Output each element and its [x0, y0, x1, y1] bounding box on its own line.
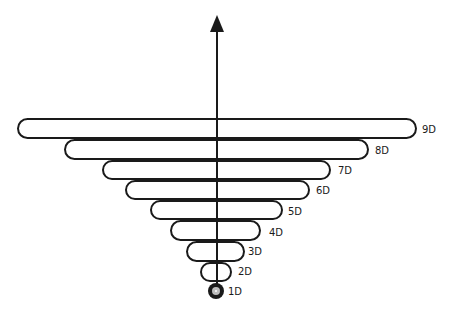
label-5d: 5D: [288, 207, 302, 217]
label-1d: 1D: [228, 287, 242, 297]
dimension-hierarchy-diagram: 9D 8D 7D 6D 5D 4D 3D 2D 1D: [0, 0, 456, 315]
label-8d: 8D: [375, 146, 389, 156]
label-2d: 2D: [238, 267, 252, 277]
core-ring-icon: [212, 287, 220, 295]
label-9d: 9D: [422, 125, 436, 135]
core-dot-icon: [215, 290, 217, 292]
core-point-1d: [208, 283, 224, 299]
label-4d: 4D: [269, 228, 283, 238]
label-7d: 7D: [338, 166, 352, 176]
label-3d: 3D: [248, 247, 262, 257]
vertical-axis: [216, 30, 218, 292]
label-6d: 6D: [316, 186, 330, 196]
arrow-up-icon: [210, 15, 224, 32]
